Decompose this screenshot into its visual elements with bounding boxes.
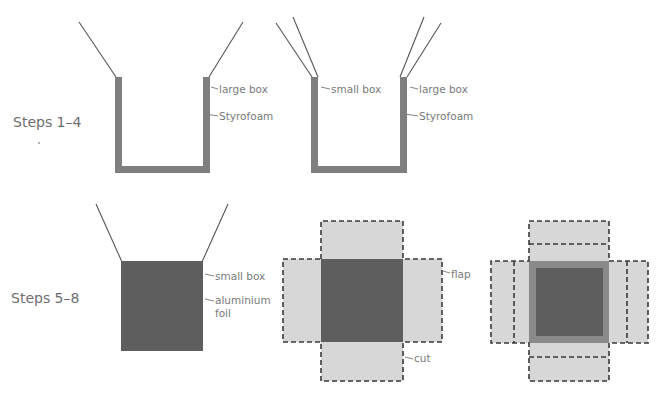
leader-small-box [321, 87, 330, 89]
stray-dot [38, 142, 40, 144]
label-flap: flap [451, 268, 471, 280]
bottom-flap-5 [529, 343, 609, 381]
right-flap [403, 259, 442, 342]
label-styrofoam-2: Styrofoam [419, 110, 473, 122]
left-flap-line-3 [96, 204, 122, 262]
inner-right-flap-line [400, 17, 424, 77]
label-styrofoam: Styrofoam [219, 110, 273, 122]
label-large-box-2: large box [419, 83, 468, 95]
label-cut: cut [414, 352, 431, 364]
center-box [321, 259, 403, 342]
left-flap-line [79, 22, 116, 77]
leader-small-box-3 [205, 274, 214, 276]
insulated-box-diagram: Steps 1–4 large box Styrofoam small box … [0, 0, 661, 393]
steps-5-8-label: Steps 5–8 [11, 290, 79, 306]
label-small-box: small box [331, 83, 381, 95]
leader-large-box-2 [410, 87, 418, 89]
left-flap [283, 259, 321, 342]
label-aluminium: aluminium [215, 294, 271, 306]
right-flap-5 [609, 261, 648, 343]
label-large-box: large box [219, 83, 268, 95]
inner-box [536, 268, 603, 336]
right-flap-line-3 [202, 204, 228, 262]
steps-1-4-label: Steps 1–4 [13, 114, 82, 130]
bottom-flap [321, 342, 403, 381]
label-foil: foil [215, 307, 231, 319]
leader-cut [405, 357, 413, 359]
foil-wrapped-box [121, 261, 203, 351]
label-small-box-3: small box [215, 270, 265, 282]
diagram-1-large-box-section: large box Styrofoam [79, 22, 273, 173]
leader-large-box [211, 87, 218, 89]
diagram-4-flap-cross: flap cut [283, 221, 471, 381]
diagram-5-folded-cross [491, 221, 648, 381]
top-flap-5 [529, 221, 609, 261]
leader-flap [443, 271, 450, 273]
top-flap [321, 221, 403, 259]
outer-right-flap-line [407, 23, 441, 77]
diagram-3-foil-wrapped-box: small box aluminium foil [96, 204, 271, 351]
styrofoam-u-wall [115, 77, 210, 173]
diagram-2-nested-boxes-section: small box large box Styrofoam [276, 17, 473, 173]
leader-foil [205, 299, 214, 301]
left-flap-5 [491, 261, 529, 343]
right-flap-line [209, 22, 243, 77]
